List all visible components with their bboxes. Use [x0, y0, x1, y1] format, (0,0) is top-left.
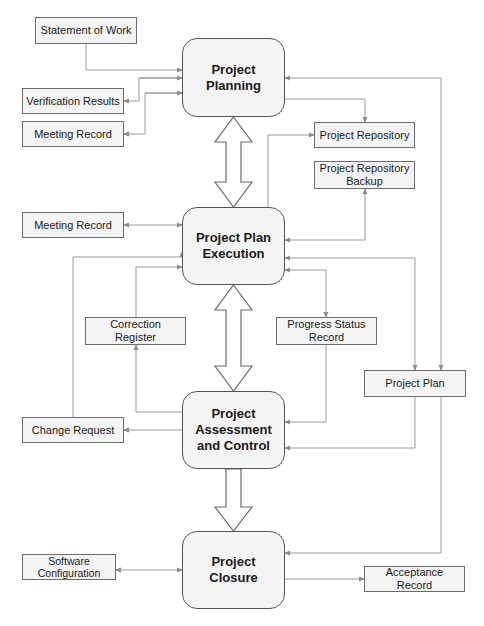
connector-sow-planning [86, 44, 182, 70]
connector-plan-closure [285, 397, 441, 553]
phase-project-plan-execution: Project Plan Execution [182, 207, 285, 285]
connector-correction-execution [136, 267, 182, 317]
artifact-label: Project Repository Backup [320, 162, 410, 188]
artifact-progress-status-record: Progress Status Record [276, 317, 377, 345]
connector-progress-assessment [285, 345, 326, 422]
flow-arrow-execution-assessment [215, 285, 252, 391]
connector-execution-repository [268, 135, 314, 207]
artifact-label: Statement of Work [41, 24, 132, 37]
artifact-acceptance-record: Acceptance Record [364, 566, 465, 592]
artifact-verification-results: Verification Results [22, 88, 124, 114]
artifact-label: Progress Status Record [287, 318, 365, 344]
artifact-change-request: Change Request [22, 417, 124, 443]
connector-assessment-correction [136, 345, 182, 412]
artifact-software-configuration: Software Configuration [22, 554, 116, 580]
artifact-project-repository-backup: Project Repository Backup [314, 161, 415, 189]
artifact-meeting-record-planning: Meeting Record [22, 121, 124, 147]
artifact-label: Meeting Record [34, 128, 112, 141]
artifact-label: Correction Register [89, 318, 182, 344]
artifact-meeting-record-execution: Meeting Record [22, 212, 124, 238]
connector-planning-verification [124, 78, 182, 101]
phase-label: Project Planning [206, 62, 261, 94]
artifact-label: Project Repository [320, 129, 410, 142]
artifact-label: Change Request [32, 424, 115, 437]
artifact-label: Acceptance Record [368, 566, 461, 592]
flow-arrow-planning-execution [215, 117, 252, 207]
artifact-label: Project Plan [385, 377, 444, 390]
connector-planning-repository [285, 99, 365, 122]
artifact-correction-register: Correction Register [85, 317, 186, 345]
phase-project-planning: Project Planning [182, 38, 285, 117]
artifact-label: Software Configuration [38, 555, 100, 579]
phase-project-assessment-control: Project Assessment and Control [182, 391, 285, 469]
connector-planning-meeting [124, 93, 182, 134]
flow-arrow-assessment-closure [215, 469, 252, 531]
artifact-label: Meeting Record [34, 219, 112, 232]
phase-label: Project Plan Execution [196, 230, 271, 262]
phase-project-closure: Project Closure [182, 531, 285, 609]
artifact-statement-of-work: Statement of Work [35, 17, 137, 44]
artifact-project-plan: Project Plan [364, 370, 466, 397]
artifact-project-repository: Project Repository [314, 122, 415, 148]
process-diagram: Project Planning Project Plan Execution … [0, 0, 484, 626]
phase-label: Project Closure [189, 554, 278, 586]
phase-label: Project Assessment and Control [195, 406, 272, 454]
artifact-label: Verification Results [26, 95, 120, 108]
